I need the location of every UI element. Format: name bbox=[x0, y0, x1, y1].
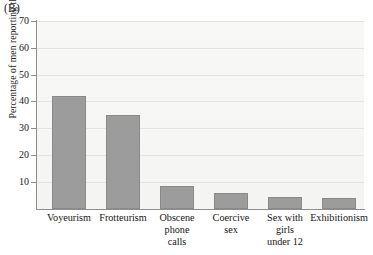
gridline-10 bbox=[37, 182, 364, 183]
y-tick-20 bbox=[31, 155, 37, 156]
y-tick-label-50: 50 bbox=[3, 70, 29, 80]
y-tick-10 bbox=[31, 182, 37, 183]
y-tick-label-70: 70 bbox=[3, 16, 29, 26]
x-label-exhibitionism: Exhibitionism bbox=[297, 212, 373, 224]
y-tick-50 bbox=[31, 75, 37, 76]
y-tick-label-30: 30 bbox=[3, 123, 29, 133]
bar-frotteurism bbox=[106, 115, 140, 209]
gridline-30 bbox=[37, 128, 364, 129]
plot-area bbox=[37, 21, 364, 209]
gridline-50 bbox=[37, 75, 364, 76]
bar-coercive-sex bbox=[214, 193, 248, 209]
y-tick-40 bbox=[31, 101, 37, 102]
gridline-60 bbox=[37, 48, 364, 49]
x-axis-line bbox=[36, 209, 365, 210]
gridline-70 bbox=[37, 21, 364, 22]
bar-exhibitionism bbox=[322, 198, 356, 209]
y-tick-label-20: 20 bbox=[3, 150, 29, 160]
plot-background bbox=[37, 21, 364, 209]
y-tick-label-60: 60 bbox=[3, 43, 29, 53]
y-tick-30 bbox=[31, 128, 37, 129]
gridline-20 bbox=[37, 155, 364, 156]
gridline-40 bbox=[37, 101, 364, 102]
y-tick-label-40: 40 bbox=[3, 96, 29, 106]
y-tick-60 bbox=[31, 48, 37, 49]
bar-sex-with-girls-under-12 bbox=[268, 197, 302, 209]
bar-obscene-phone-calls bbox=[160, 186, 194, 209]
bar-voyeurism bbox=[52, 96, 86, 209]
y-tick-70 bbox=[31, 21, 37, 22]
y-tick-label-10: 10 bbox=[3, 177, 29, 187]
